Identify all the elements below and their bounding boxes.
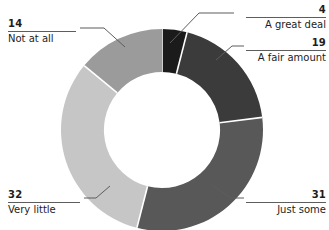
slice-value-not-at-all: 14 [8, 19, 76, 31]
slice-name-not-at-all: Not at all [8, 32, 76, 45]
slice-name-fair-amount: A fair amount [246, 51, 326, 64]
slice-name-just-some: Just some [246, 203, 326, 216]
slice-name-very-little: Very little [8, 203, 80, 216]
slice-value-fair-amount: 19 [246, 38, 326, 50]
slice-label-very-little: 32 Very little [8, 190, 80, 215]
donut-slices [61, 29, 263, 230]
slice-value-great-deal: 4 [246, 5, 326, 17]
slice-label-great-deal: 4 A great deal [246, 5, 326, 30]
slice-label-not-at-all: 14 Not at all [8, 19, 76, 44]
slice-label-fair-amount: 19 A fair amount [246, 38, 326, 63]
slice-value-just-some: 31 [246, 190, 326, 202]
slice-value-very-little: 32 [8, 190, 80, 202]
donut-slice [137, 117, 263, 230]
chart-page: 4 A great deal 19 A fair amount 31 Just … [0, 0, 329, 230]
slice-name-great-deal: A great deal [246, 18, 326, 31]
slice-label-just-some: 31 Just some [246, 190, 326, 215]
